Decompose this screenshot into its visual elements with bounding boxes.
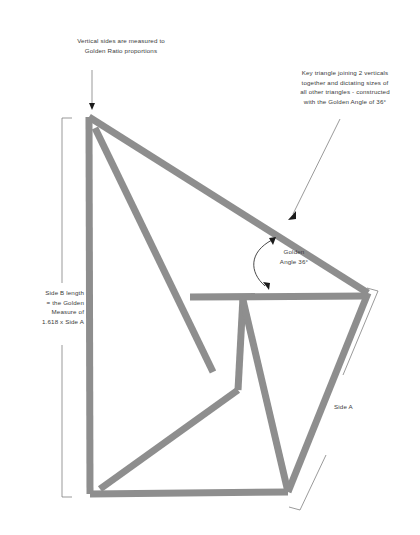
bottom-edge	[90, 492, 288, 494]
diagram-canvas: Vertical sides are measured to Golden Ra…	[0, 0, 420, 535]
inner-horizontal-shelf	[190, 296, 366, 297]
golden-angle-arrowhead-bottom	[263, 282, 270, 290]
triangle-figure	[89, 117, 368, 494]
key-triangle-leader-line	[293, 119, 340, 214]
side-a-bracket-upper	[343, 288, 378, 375]
vertical-sides-arrowhead	[89, 103, 95, 110]
annotation-side-a: Side A	[334, 402, 384, 412]
side-b-bracket-upper	[62, 118, 72, 283]
key-triangle-leader	[288, 119, 340, 220]
vertical-sides-leader	[89, 70, 95, 110]
annotation-vertical-sides: Vertical sides are measured to Golden Ra…	[36, 36, 206, 55]
annotation-key-triangle: Key triangle joining 2 verticals togethe…	[272, 68, 418, 106]
inner-diagonal-left	[95, 128, 213, 372]
left-vertical-side	[89, 117, 90, 494]
key-triangle-arrowhead	[288, 211, 296, 220]
side-a-bracket	[289, 288, 378, 510]
annotation-side-b: Side B length = the Golden Measure of 1.…	[8, 288, 84, 326]
annotation-golden-angle: Golden Angle 36°	[264, 247, 324, 266]
side-b-bracket-lower	[62, 345, 72, 497]
inner-strut-to-corner	[243, 300, 288, 492]
right-vertical-side	[288, 293, 368, 492]
lower-diagonal	[100, 390, 238, 489]
